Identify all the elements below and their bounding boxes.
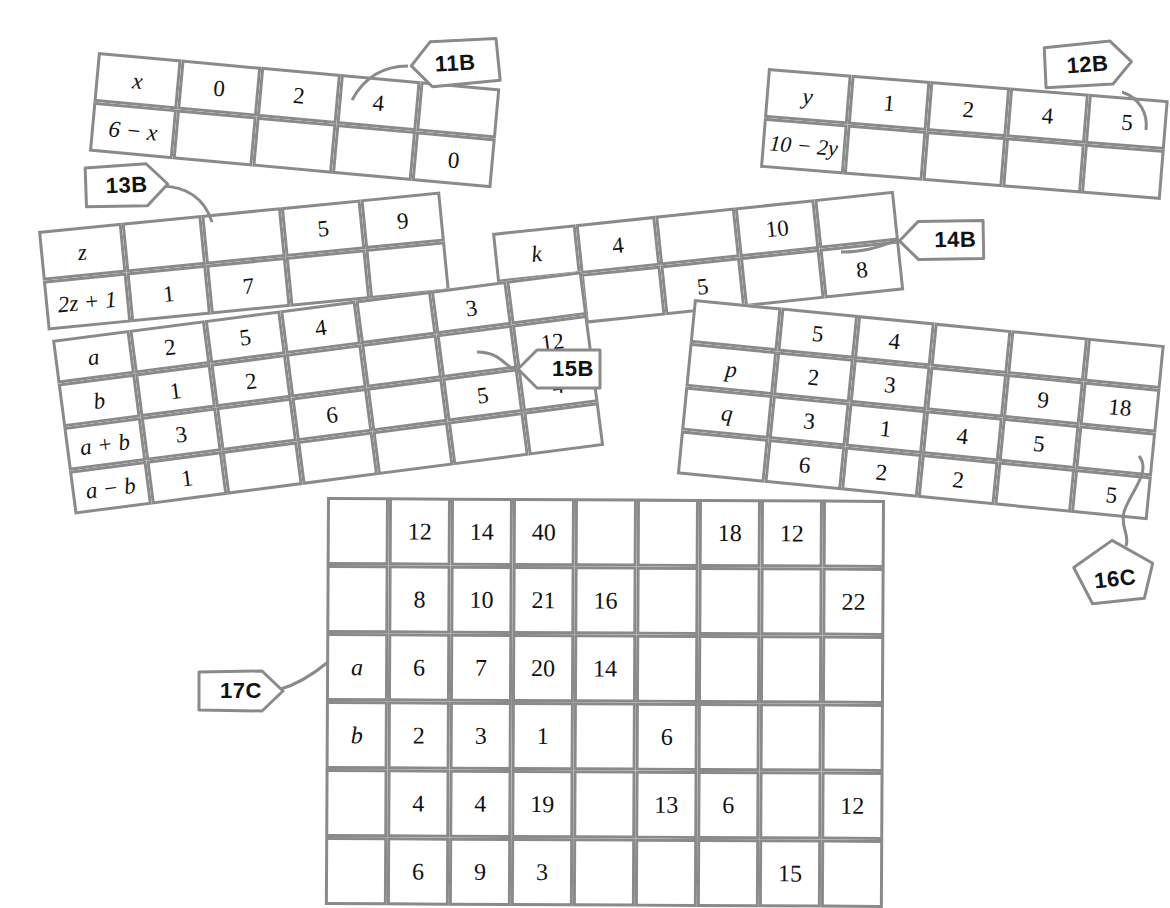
cell-17c-r4c3[interactable]: 19 [511,770,573,838]
cell-17c-r5c6[interactable] [697,839,759,907]
cell-11b-r0c4[interactable] [416,81,500,138]
cell-17c-r0c6[interactable]: 18 [699,499,761,567]
cell-13b-r0c1[interactable] [122,215,206,273]
cell-17c-r2c8[interactable] [822,636,884,704]
cell-17c-r0c1[interactable]: 12 [389,497,451,565]
cell-17c-r5c4[interactable] [573,838,635,906]
cell-11b-r1c0[interactable]: 6 − x [89,102,177,159]
cell-16c-r2c1[interactable]: 3 [769,395,850,446]
cell-13b-r1c1[interactable]: 1 [126,265,210,323]
cell-16c-r3c1[interactable]: 6 [764,439,845,490]
cell-17c-r3c5[interactable]: 6 [636,703,698,771]
cell-17c-r0c5[interactable] [637,499,699,567]
cell-16c-r0c4[interactable] [1007,330,1088,381]
cell-16c-r3c0[interactable] [677,430,769,482]
cell-16c-r1c5[interactable]: 18 [1080,381,1161,432]
cell-15b-r3c4[interactable] [372,422,453,475]
cell-17c-r2c2[interactable]: 7 [450,634,512,702]
cell-17c-r2c5[interactable] [636,635,698,703]
cell-17c-r3c0[interactable]: b [326,701,388,769]
cell-17c-r0c8[interactable] [823,500,885,568]
cell-17c-r0c4[interactable] [575,498,637,566]
cell-17c-r1c6[interactable] [698,567,760,635]
cell-11b-r0c0[interactable]: x [93,52,181,109]
cell-17c-r5c1[interactable]: 6 [387,837,449,905]
cell-16c-r1c1[interactable]: 2 [773,351,854,402]
cell-15b-r3c5[interactable] [448,412,529,465]
cell-15b-r3c3[interactable] [297,431,378,484]
cell-13b-r0c0[interactable]: z [38,223,126,281]
cell-17c-r2c7[interactable] [760,635,822,703]
cell-17c-r2c4[interactable]: 14 [574,634,636,702]
cell-11b-r0c3[interactable]: 4 [336,74,420,131]
tag-11b[interactable]: 11B [408,36,502,90]
cell-12b-r0c3[interactable]: 4 [1006,87,1089,143]
cell-16c-r2c3[interactable]: 4 [922,410,1003,461]
cell-14b-r0c2[interactable] [655,207,740,265]
cell-17c-r4c7[interactable] [759,771,821,839]
tag-13b[interactable]: 13B [82,161,172,210]
cell-17c-r5c5[interactable] [635,839,697,907]
cell-12b-r0c4[interactable]: 5 [1085,94,1168,150]
cell-17c-r3c2[interactable]: 3 [450,702,512,770]
cell-17c-r5c0[interactable] [325,837,387,905]
cell-17c-r3c4[interactable] [574,702,636,770]
cell-17c-r2c3[interactable]: 20 [512,634,574,702]
cell-14b-r1c4[interactable]: 8 [819,240,904,298]
cell-16c-r2c5[interactable] [1075,425,1156,476]
cell-13b-r0c3[interactable]: 5 [281,199,365,257]
cell-17c-r4c6[interactable]: 6 [697,771,759,839]
cell-17c-r4c1[interactable]: 4 [387,769,449,837]
cell-16c-r0c1[interactable]: 5 [777,308,858,359]
cell-16c-r3c4[interactable] [994,461,1075,512]
cell-17c-r1c7[interactable] [760,567,822,635]
cell-17c-r0c2[interactable]: 14 [451,498,513,566]
cell-14b-r1c3[interactable] [740,249,825,307]
cell-11b-r1c1[interactable] [173,109,257,166]
cell-17c-r5c8[interactable] [821,840,883,908]
cell-13b-r1c0[interactable]: 2z + 1 [43,273,131,331]
tag-17c[interactable]: 17C [196,668,286,714]
cell-14b-r0c3[interactable]: 10 [735,199,820,257]
cell-17c-r4c5[interactable]: 13 [635,771,697,839]
cell-13b-r0c4[interactable]: 9 [360,192,444,250]
cell-14b-r0c4[interactable] [814,191,899,249]
cell-17c-r4c0[interactable] [325,769,387,837]
cell-17c-r0c0[interactable] [327,497,389,565]
cell-16c-r2c4[interactable]: 5 [999,418,1080,469]
tag-14b[interactable]: 14B [896,217,987,263]
cell-17c-r3c6[interactable] [698,703,760,771]
cell-17c-r1c2[interactable]: 10 [450,566,512,634]
cell-16c-r0c2[interactable]: 4 [854,315,935,366]
cell-16c-r1c4[interactable]: 9 [1003,374,1084,425]
cell-17c-r1c0[interactable] [326,565,388,633]
cell-17c-r2c0[interactable]: a [326,633,388,701]
cell-17c-r3c7[interactable] [760,703,822,771]
cell-17c-r0c7[interactable]: 12 [761,499,823,567]
cell-15b-r3c2[interactable] [222,441,303,494]
cell-14b-r1c1[interactable] [581,266,666,324]
cell-17c-r1c8[interactable]: 22 [822,568,884,636]
cell-15b-r3c6[interactable] [523,402,604,455]
cell-16c-r3c2[interactable]: 2 [841,446,922,497]
cell-14b-r0c1[interactable]: 4 [576,216,661,274]
cell-13b-r1c3[interactable] [286,249,370,307]
cell-17c-r5c7[interactable]: 15 [759,839,821,907]
cell-11b-r1c4[interactable]: 0 [412,131,496,188]
tag-16c[interactable]: 16C [1068,533,1161,610]
cell-17c-r0c3[interactable]: 40 [513,498,575,566]
cell-16c-r1c2[interactable]: 3 [850,359,931,410]
cell-16c-r2c2[interactable]: 1 [845,403,926,454]
cell-17c-r3c3[interactable]: 1 [512,702,574,770]
cell-17c-r1c4[interactable]: 16 [574,566,636,634]
cell-17c-r5c2[interactable]: 9 [449,838,511,906]
cell-16c-r0c3[interactable] [931,323,1012,374]
cell-13b-r1c2[interactable]: 7 [206,257,290,315]
cell-17c-r4c2[interactable]: 4 [449,770,511,838]
cell-12b-r0c2[interactable]: 2 [927,81,1010,137]
cell-11b-r1c2[interactable] [252,117,336,174]
cell-15b-r3c1[interactable]: 1 [146,451,227,504]
cell-17c-r1c1[interactable]: 8 [388,565,450,633]
cell-12b-r1c0[interactable]: 10 − 2y [760,118,847,175]
cell-12b-r0c0[interactable]: y [764,68,851,125]
